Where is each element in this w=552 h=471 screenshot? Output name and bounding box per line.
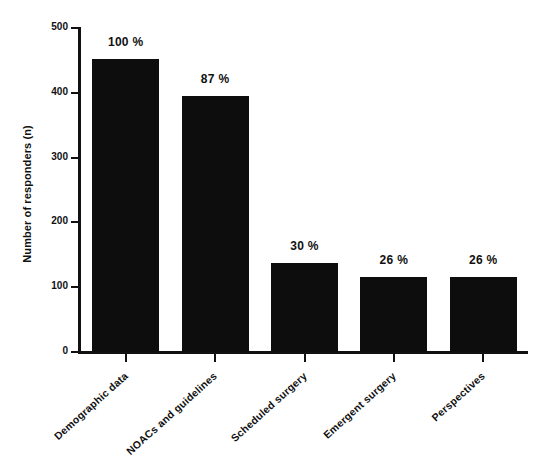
x-category-label: Demographic data — [0, 370, 130, 471]
bar — [360, 277, 427, 352]
x-category-label: Scheduled surgery — [152, 370, 309, 471]
y-tick-label: 300 — [26, 152, 68, 162]
y-tick-label: 0 — [26, 346, 68, 356]
x-category-label: Emergent surgery — [241, 370, 398, 471]
y-tick-label: 200 — [26, 216, 68, 226]
y-tick-mark — [71, 157, 78, 159]
plot-area — [81, 28, 528, 352]
bar — [450, 277, 517, 352]
y-tick-mark — [71, 351, 78, 353]
x-tick-mark — [482, 354, 484, 362]
y-tick-label: 400 — [26, 87, 68, 97]
y-tick-mark — [71, 92, 78, 94]
bar-series — [81, 28, 528, 352]
bar-value-label: 30 % — [260, 239, 350, 253]
x-tick-mark — [304, 354, 306, 362]
bar-value-label: 87 % — [170, 72, 260, 86]
x-tick-mark — [393, 354, 395, 362]
bar-value-label: 26 % — [349, 253, 439, 267]
y-tick-label: 100 — [26, 281, 68, 291]
bar-value-label: 100 % — [81, 35, 171, 49]
bar-value-label: 26 % — [438, 253, 528, 267]
x-tick-mark — [214, 354, 216, 362]
y-axis-title: Number of responders (n) — [21, 104, 33, 284]
y-tick-mark — [71, 27, 78, 29]
y-tick-label: 500 — [26, 22, 68, 32]
y-tick-mark — [71, 286, 78, 288]
bar — [182, 96, 249, 352]
y-tick-mark — [71, 221, 78, 223]
bar-chart: Number of responders (n) 500400300200100… — [0, 0, 552, 471]
x-category-label: NOACs and guidelines — [62, 370, 219, 471]
bar — [271, 263, 338, 352]
x-tick-mark — [125, 354, 127, 362]
bar — [92, 59, 159, 352]
x-category-label: Perspectives — [331, 370, 488, 471]
